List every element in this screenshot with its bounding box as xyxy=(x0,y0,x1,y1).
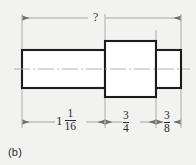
dimension-left-whole: 1 xyxy=(56,114,63,127)
drawing-canvas xyxy=(0,0,196,165)
dimension-center-denominator: 4 xyxy=(123,122,129,135)
dimension-center-numerator: 3 xyxy=(123,110,129,122)
technical-drawing-figure: ? 1 1 16 3 4 3 8 (b) xyxy=(0,0,196,165)
dimension-center-flange: 3 4 xyxy=(122,108,130,134)
dimension-left-denominator: 16 xyxy=(65,120,77,133)
dimension-left-shaft: 1 1 16 xyxy=(55,108,77,132)
dimension-right-shaft: 3 8 xyxy=(163,108,171,134)
dimension-right-numerator: 3 xyxy=(164,110,170,122)
dimension-right-denominator: 8 xyxy=(164,122,170,135)
overall-dimension-value: ? xyxy=(92,11,99,23)
figure-caption: (b) xyxy=(8,146,22,158)
dimension-left-numerator: 1 xyxy=(67,108,73,120)
